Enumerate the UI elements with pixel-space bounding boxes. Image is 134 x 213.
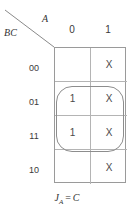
column-header-1: 1 xyxy=(90,24,126,35)
kmap-figure: BC A 0 1 00 01 11 10 X 1 X 1 X X JA=C xyxy=(0,0,134,213)
kmap-cell: X xyxy=(91,116,127,150)
caption-operator: = xyxy=(63,192,73,203)
column-header-0: 0 xyxy=(54,24,90,35)
kmap-cell xyxy=(55,150,91,184)
row-variable-label: BC xyxy=(4,27,17,38)
row-header-00: 00 xyxy=(18,51,50,85)
row-header-11: 11 xyxy=(18,119,50,153)
kmap-cell: 1 xyxy=(55,116,91,150)
row-header-01: 01 xyxy=(18,85,50,119)
kmap-cell: X xyxy=(91,150,127,184)
kmap-cell: X xyxy=(91,48,127,82)
kmap-cell: X xyxy=(91,82,127,116)
kmap-cell: 1 xyxy=(55,82,91,116)
kmap-grid: X 1 X 1 X X xyxy=(54,47,126,183)
caption-expression: C xyxy=(73,192,80,203)
kmap-cell xyxy=(55,48,91,82)
column-variable-label: A xyxy=(42,13,48,24)
kmap-caption: JA=C xyxy=(0,192,134,206)
row-header-10: 10 xyxy=(18,153,50,187)
